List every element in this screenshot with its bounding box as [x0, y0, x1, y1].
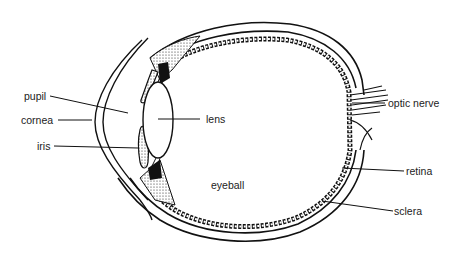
label-iris: iris [37, 141, 50, 152]
eye-diagram: pupil cornea iris lens eyeball optic ner… [0, 0, 459, 263]
label-retina: retina [406, 166, 432, 177]
label-lens: lens [206, 114, 225, 125]
label-optic-nerve: optic nerve [388, 98, 439, 109]
retina-shape [146, 39, 350, 227]
label-cornea: cornea [21, 115, 53, 126]
label-eyeball: eyeball [211, 180, 244, 191]
eye-illustration [0, 0, 459, 263]
optic-nerve-shape [350, 86, 388, 150]
label-pupil: pupil [24, 91, 46, 102]
label-sclera: sclera [394, 206, 422, 217]
lens-shape [143, 82, 173, 158]
